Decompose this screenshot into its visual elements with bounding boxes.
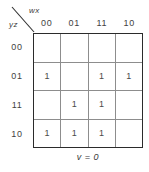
row-header-3: 10: [3, 119, 31, 148]
kmap-cell[interactable]: [61, 34, 88, 62]
kmap-cell[interactable]: [116, 120, 142, 148]
karnaugh-map-figure: wx yz 00 01 11 10 00 01 11 10 1 1 1 1 1: [0, 0, 149, 172]
column-header-1: 01: [61, 16, 89, 31]
row-header-0: 00: [3, 33, 31, 62]
kmap-cell[interactable]: 1: [89, 63, 116, 91]
kmap-cell[interactable]: 1: [34, 120, 61, 148]
column-header-2: 11: [88, 16, 116, 31]
kmap-cell[interactable]: [116, 34, 142, 62]
kmap-cell[interactable]: [34, 91, 61, 119]
kmap-cell[interactable]: 1: [89, 91, 116, 119]
column-headers: 00 01 11 10: [33, 16, 143, 31]
column-header-0: 00: [33, 16, 61, 31]
kmap-grid: 1 1 1 1 1 1 1 1: [33, 33, 143, 148]
kmap-cell[interactable]: 1: [89, 120, 116, 148]
kmap-caption: v = 0: [33, 152, 143, 162]
column-header-3: 10: [116, 16, 144, 31]
kmap-row: 1 1 1: [34, 120, 142, 148]
column-variable-label: wx: [29, 6, 40, 15]
row-variable-label: yz: [9, 20, 18, 29]
kmap-cell[interactable]: 1: [61, 120, 88, 148]
row-headers: 00 01 11 10: [3, 33, 31, 148]
kmap-cell[interactable]: 1: [61, 91, 88, 119]
kmap-cell[interactable]: [89, 34, 116, 62]
kmap-row: 1 1 1: [34, 63, 142, 92]
kmap-row: [34, 34, 142, 63]
kmap-cell[interactable]: [116, 91, 142, 119]
row-header-1: 01: [3, 62, 31, 91]
kmap-cell[interactable]: 1: [34, 63, 61, 91]
kmap-cell[interactable]: 1: [116, 63, 142, 91]
kmap-cell[interactable]: [34, 34, 61, 62]
kmap-row: 1 1: [34, 91, 142, 120]
kmap-cell[interactable]: [61, 63, 88, 91]
row-header-2: 11: [3, 91, 31, 120]
